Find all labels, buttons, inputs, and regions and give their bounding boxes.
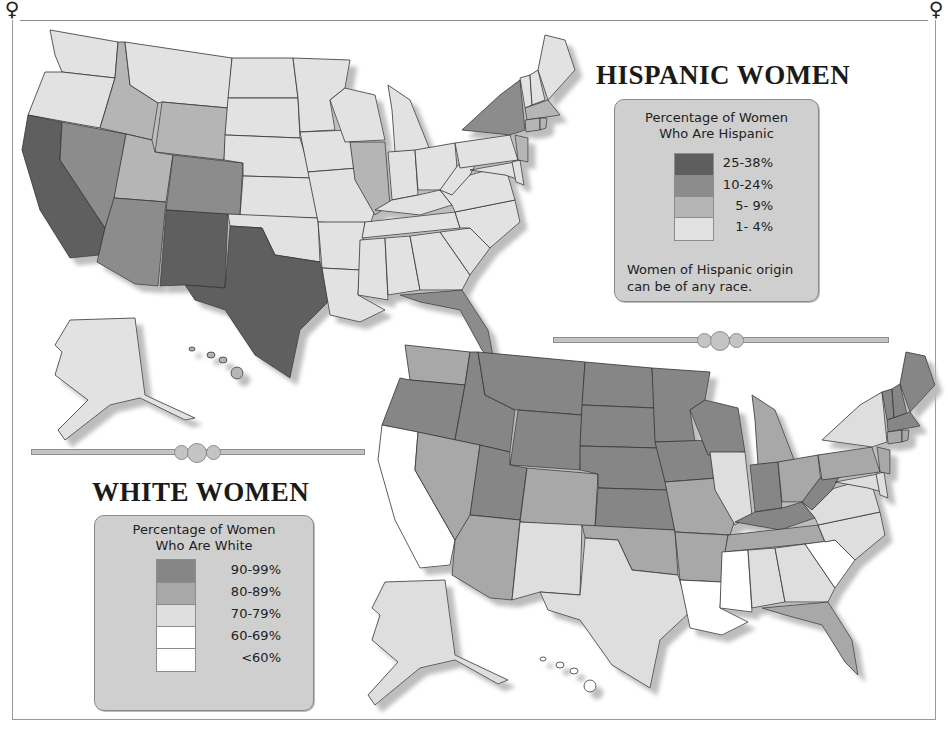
- swatch-5-9: [675, 197, 713, 218]
- swatch-25-38: [675, 154, 713, 176]
- state-AR: [318, 222, 365, 270]
- state-RI: [902, 430, 909, 442]
- state-WA: [405, 345, 470, 385]
- state-CO: [520, 468, 598, 528]
- divider-beads-left: [174, 443, 224, 461]
- state-CO: [166, 155, 243, 216]
- hispanic-legend-note: Women of Hispanic origin can be of any r…: [627, 261, 793, 295]
- state-DE: [512, 160, 524, 185]
- swatch-90-99: [157, 560, 195, 583]
- state-ME: [900, 352, 935, 412]
- state-CT: [525, 118, 540, 132]
- state-ND: [228, 58, 298, 98]
- state-ME: [538, 35, 575, 100]
- state-IN: [388, 150, 418, 200]
- white-legend-label: 90-99%: [205, 562, 281, 577]
- hispanic-legend-label: 10-24%: [715, 177, 773, 192]
- note-line1: Women of Hispanic origin: [627, 261, 793, 278]
- swatch-60-69: [157, 627, 195, 649]
- state-CT: [887, 430, 902, 444]
- note-line2: can be of any race.: [627, 278, 793, 295]
- state-SD: [225, 98, 300, 138]
- state-NM: [512, 522, 582, 600]
- hispanic-legend: Percentage of Women Who Are Hispanic 25-…: [614, 99, 819, 302]
- white-legend-label: <60%: [205, 650, 281, 665]
- white-legend-label: 80-89%: [205, 584, 281, 599]
- white-legend-title-line1: Percentage of Women: [95, 522, 313, 538]
- state-MS: [720, 550, 752, 612]
- swatch-1-4: [675, 218, 713, 240]
- state-AK: [55, 318, 195, 440]
- hispanic-title: HISPANIC WOMEN: [596, 60, 850, 91]
- state-NY: [462, 80, 525, 135]
- state-MI: [752, 395, 795, 465]
- swatch-under-60: [157, 649, 195, 671]
- white-legend-label: 60-69%: [205, 628, 281, 643]
- hispanic-legend-label: 25-38%: [715, 155, 773, 170]
- white-legend-swatches: [156, 559, 196, 672]
- white-legend: Percentage of Women Who Are White 90-99%…: [94, 515, 314, 711]
- state-HI: [540, 657, 596, 692]
- state-AZ: [452, 515, 520, 600]
- state-WA: [50, 30, 118, 78]
- state-NY: [822, 392, 887, 447]
- state-HI: [189, 347, 243, 379]
- hispanic-legend-swatches: [674, 153, 714, 241]
- divider-beads-right: [697, 331, 747, 349]
- state-ND: [582, 362, 655, 408]
- white-legend-title-line2: Who Are White: [95, 538, 313, 554]
- state-AR: [675, 532, 728, 582]
- swatch-80-89: [157, 583, 195, 605]
- hispanic-legend-label: 5- 9%: [715, 198, 773, 213]
- hispanic-legend-title-line2: Who Are Hispanic: [615, 126, 818, 142]
- state-AK: [368, 580, 508, 705]
- hispanic-legend-label: 1- 4%: [715, 219, 773, 234]
- hispanic-legend-title-line1: Percentage of Women: [615, 110, 818, 126]
- swatch-70-79: [157, 605, 195, 627]
- state-NM: [160, 210, 228, 288]
- swatch-10-24: [675, 176, 713, 197]
- state-RI: [540, 118, 547, 130]
- state-IN: [750, 462, 782, 512]
- state-KS: [240, 176, 318, 218]
- state-FL: [762, 602, 858, 675]
- state-SD: [580, 405, 658, 448]
- white-legend-label: 70-79%: [205, 606, 281, 621]
- state-MS: [358, 238, 388, 300]
- state-DE: [876, 472, 888, 498]
- state-WY: [510, 410, 582, 470]
- state-KS: [595, 488, 675, 530]
- state-MI: [388, 85, 430, 152]
- state-WY: [155, 102, 228, 160]
- white-map: [368, 345, 935, 705]
- white-title: WHITE WOMEN: [92, 477, 309, 508]
